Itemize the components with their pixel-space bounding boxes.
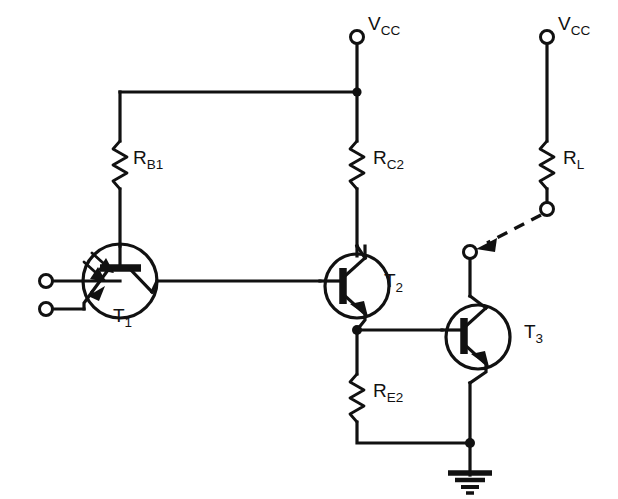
rc2-body bbox=[350, 141, 364, 189]
t3-emitter-lead bbox=[470, 364, 486, 383]
re2-bottom-to-ground-rail bbox=[357, 422, 470, 443]
rc2-branch bbox=[350, 92, 364, 246]
rl-body bbox=[540, 141, 554, 189]
vcc-right-label: VCC bbox=[558, 13, 590, 38]
lamp-terminal-bottom[interactable] bbox=[464, 246, 477, 259]
t3-collector-slant bbox=[466, 308, 486, 326]
vcc-left-branch bbox=[120, 31, 364, 142]
lamp-terminal-top[interactable] bbox=[541, 203, 554, 216]
t1-collector-slant bbox=[131, 270, 152, 292]
light-ray-arrowhead bbox=[476, 238, 497, 252]
rb1-label: RB1 bbox=[133, 147, 163, 172]
rb1-body bbox=[113, 141, 127, 189]
input-terminal-bottom[interactable] bbox=[40, 303, 53, 316]
junction-dot-ground-rail bbox=[465, 438, 475, 448]
transistor-t2[interactable] bbox=[320, 246, 389, 330]
t2-collector-slant bbox=[345, 258, 365, 276]
re2-body bbox=[350, 374, 364, 422]
vcc-right-branch bbox=[540, 31, 554, 216]
light-ray-shaft bbox=[487, 215, 541, 243]
t1-light-arrows bbox=[84, 253, 114, 282]
input-terminal-pair[interactable] bbox=[40, 275, 121, 316]
rc2-label: RC2 bbox=[373, 147, 404, 172]
input-terminal-top[interactable] bbox=[40, 275, 53, 288]
re2-label: RE2 bbox=[373, 380, 403, 405]
schematic-canvas: T1 T2 bbox=[0, 0, 618, 499]
emitter-node-network bbox=[350, 325, 470, 443]
t2-label: T2 bbox=[384, 270, 403, 295]
circuit-schematic: T1 T2 bbox=[0, 0, 618, 499]
resistor-rb1 bbox=[113, 141, 127, 246]
vcc-right-terminal[interactable] bbox=[541, 31, 554, 44]
vcc-left-label: VCC bbox=[368, 13, 400, 38]
t3-label: T3 bbox=[524, 321, 543, 346]
light-ray bbox=[476, 215, 541, 252]
t1-label: T1 bbox=[113, 305, 132, 330]
vcc-left-terminal[interactable] bbox=[351, 31, 364, 44]
rl-label: RL bbox=[563, 147, 585, 172]
transistor-t3[interactable] bbox=[442, 296, 510, 383]
